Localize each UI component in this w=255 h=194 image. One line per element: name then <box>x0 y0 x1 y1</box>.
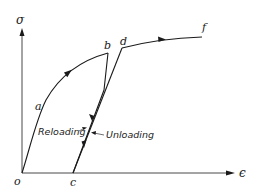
point-label-d: d <box>120 35 127 48</box>
point-label-c: c <box>70 176 76 189</box>
point-label-f: f <box>201 21 208 34</box>
reloading-annotation: Reloading <box>38 126 85 137</box>
unloading-line-bc <box>73 53 108 173</box>
df-arrow-icon <box>158 37 166 43</box>
sigma-axis-arrow-icon <box>20 28 25 36</box>
point-label-a: a <box>35 100 42 113</box>
reloading-line-cd <box>73 48 122 173</box>
sigma-axis-label: σ <box>16 13 25 27</box>
unloading-annotation: Unloading <box>106 129 154 140</box>
epsilon-axis-arrow-icon <box>226 171 235 176</box>
point-label-b: b <box>104 39 111 52</box>
unloading-pointer-arrow-icon <box>91 131 96 135</box>
epsilon-axis-label: ϵ <box>239 166 246 180</box>
point-label-o: o <box>14 175 21 188</box>
stress-strain-diagram: σ ϵ o a b c d f Reloading Unloading <box>0 0 255 194</box>
